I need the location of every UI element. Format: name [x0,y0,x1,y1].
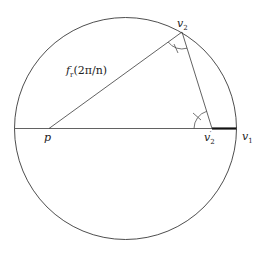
label-edge-p-v2: fr(2π/n) [66,65,107,79]
angle-arc-v2prime [194,111,207,128]
edge-v2-v2prime [182,32,212,129]
label-p-base: p [44,131,51,144]
diagram-canvas: v2 fr(2π/n) p v2′ v1 [0,0,263,254]
label-v2-sub: 2 [183,24,187,32]
label-v2prime-sub: 2 [210,138,214,146]
label-v2-prime: v2′ [204,131,211,146]
angle-arc-v2 [168,42,187,49]
edge-p-v2 [49,32,182,129]
label-v2prime-prime: ′ [210,130,212,138]
geometry-figure [0,0,263,254]
label-v1-sub: 1 [248,137,252,145]
label-v2: v2 [177,18,188,32]
label-edge-arg: (2π/n) [73,64,107,77]
label-p: p [44,132,51,143]
label-v1: v1 [242,131,253,145]
